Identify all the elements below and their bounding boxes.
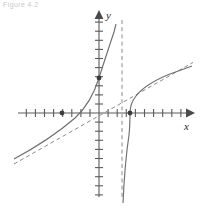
x-axis-label: x	[183, 120, 189, 132]
y-intercept-dot	[97, 76, 102, 81]
curve-right-branch	[123, 66, 192, 203]
y-axis-label: y	[105, 9, 111, 21]
y-axis-arrowhead	[95, 10, 104, 19]
x-intercept-right-dot	[128, 111, 133, 116]
figure-container: Figure 4.2	[0, 0, 202, 206]
axis-group	[18, 10, 195, 197]
x-intercept-left-dot	[60, 111, 65, 116]
x-axis-arrowhead	[186, 109, 195, 118]
graph-plot: y x	[0, 0, 202, 206]
curve-left-branch	[14, 24, 116, 159]
